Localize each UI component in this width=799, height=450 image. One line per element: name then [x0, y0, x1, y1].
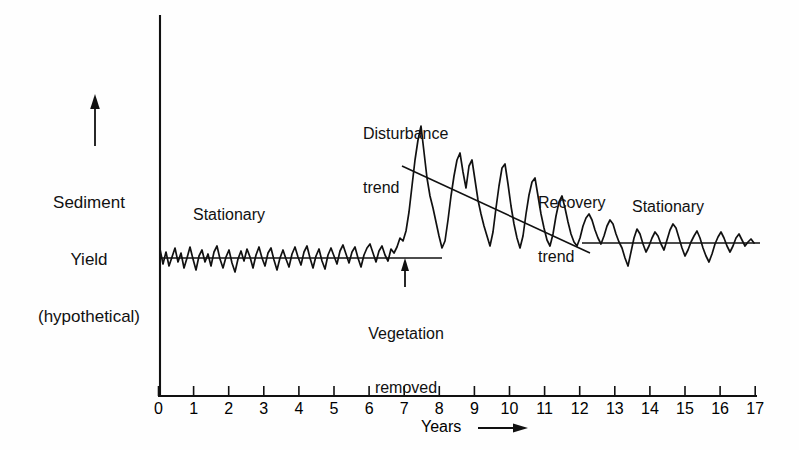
vegetation-removed-arrow-icon — [401, 258, 409, 287]
y-axis-label-line-3: (hypothetical) — [14, 307, 164, 326]
annotation-disturbance-trend-line-1: Disturbance — [363, 125, 448, 143]
x-axis-direction-arrow-icon — [478, 423, 528, 432]
annotation-vegetation-removed: Vegetation removed — [335, 289, 477, 432]
annotation-disturbance-trend: Disturbance trend — [363, 89, 448, 232]
chart-figure: Sediment Yield (hypothetical) Years 0 1 … — [0, 0, 799, 450]
annotation-recovery-trend-line-1: Recovery — [538, 194, 606, 212]
annotation-stationary-left: Stationary — [193, 206, 265, 224]
y-axis-label-line-1: Sediment — [14, 193, 164, 212]
x-tick-label-0: 0 — [147, 400, 171, 418]
annotation-stationary-right: Stationary — [632, 198, 704, 216]
annotation-vegetation-removed-line-2: removed — [335, 379, 477, 397]
annotation-recovery-trend-line-2: trend — [538, 248, 606, 266]
x-tick-label-12: 12 — [568, 400, 592, 418]
x-tick-label-1: 1 — [182, 400, 206, 418]
x-tick-label-15: 15 — [673, 400, 697, 418]
x-tick-label-3: 3 — [252, 400, 276, 418]
annotation-recovery-trend: Recovery trend — [538, 158, 606, 301]
x-tick-label-2: 2 — [217, 400, 241, 418]
x-tick-label-17: 17 — [743, 400, 767, 418]
x-tick-label-14: 14 — [638, 400, 662, 418]
y-axis-label: Sediment Yield (hypothetical) — [14, 155, 164, 364]
y-axis-direction-arrow-icon — [90, 94, 100, 146]
x-tick-label-13: 13 — [603, 400, 627, 418]
annotation-vegetation-removed-line-1: Vegetation — [335, 325, 477, 343]
x-tick-label-4: 4 — [287, 400, 311, 418]
x-tick-label-16: 16 — [708, 400, 732, 418]
x-tick-label-10: 10 — [498, 400, 522, 418]
y-axis-label-line-2: Yield — [14, 250, 164, 269]
annotation-disturbance-trend-line-2: trend — [363, 179, 448, 197]
x-tick-label-11: 11 — [533, 400, 557, 418]
